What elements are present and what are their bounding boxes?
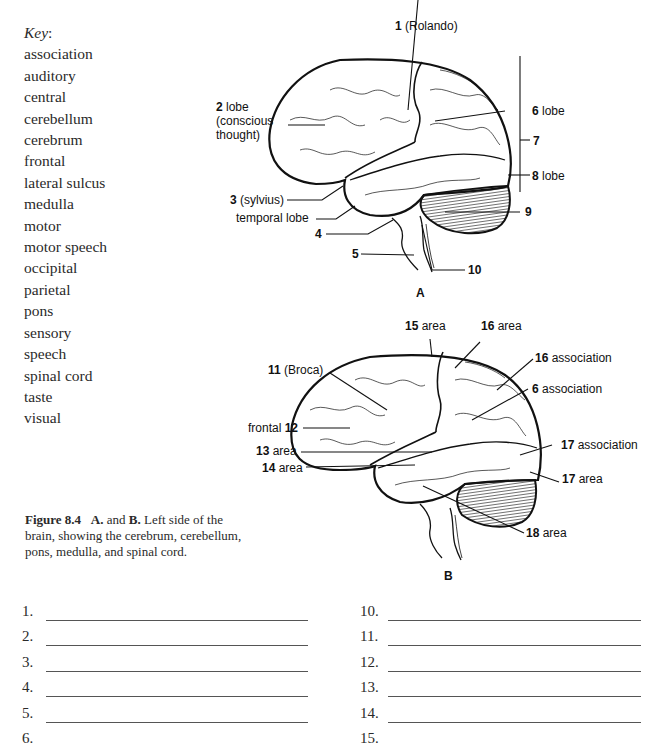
answer-row: 13. — [360, 677, 650, 702]
svg-text:11 (Broca): 11 (Broca) — [268, 363, 323, 377]
svg-text:6 association: 6 association — [532, 382, 602, 396]
answer-row: 14. — [360, 703, 650, 728]
svg-text:5: 5 — [352, 247, 359, 261]
svg-text:(conscious: (conscious — [216, 114, 273, 128]
answer-blank[interactable] — [388, 671, 641, 672]
answer-number: 5. — [22, 705, 33, 722]
svg-text:15 area: 15 area — [405, 319, 446, 333]
answer-number: 14. — [360, 705, 379, 722]
brain-a — [269, 59, 510, 272]
svg-text:temporal lobe: temporal lobe — [236, 211, 309, 225]
svg-text:thought): thought) — [216, 128, 260, 142]
svg-text:13 area: 13 area — [256, 444, 297, 458]
brain-b — [291, 352, 540, 560]
answer-column-left: 1. 2. 3. 4. 5. 6. — [22, 601, 312, 747]
svg-text:B: B — [444, 569, 453, 583]
answer-row: 15. — [360, 728, 650, 747]
svg-text:18 area: 18 area — [526, 526, 567, 540]
answer-row: 10. — [360, 601, 650, 626]
answer-blank[interactable] — [46, 696, 308, 697]
svg-text:7: 7 — [533, 134, 540, 148]
svg-text:6 lobe: 6 lobe — [532, 104, 565, 118]
answer-number: 2. — [22, 628, 33, 645]
answer-row: 6. — [22, 728, 312, 747]
answer-blank[interactable] — [388, 620, 641, 621]
answer-number: 10. — [360, 603, 379, 620]
svg-text:8 lobe: 8 lobe — [532, 169, 565, 183]
svg-text:2 lobe: 2 lobe — [216, 100, 249, 114]
svg-text:A: A — [416, 286, 425, 300]
answer-number: 15. — [360, 730, 379, 747]
answer-row: 11. — [360, 626, 650, 651]
svg-text:16 area: 16 area — [481, 319, 522, 333]
answer-blank[interactable] — [46, 645, 308, 646]
labels-a: 1 (Rolando) 2 lobe (conscious thought) 6… — [216, 19, 565, 300]
answer-blank[interactable] — [46, 620, 308, 621]
answer-row: 12. — [360, 652, 650, 677]
answer-blank[interactable] — [46, 722, 308, 723]
answer-row: 3. — [22, 652, 312, 677]
answer-number: 12. — [360, 654, 379, 671]
svg-text:17 area: 17 area — [562, 472, 603, 486]
answer-blank[interactable] — [388, 645, 641, 646]
brain-diagram: 1 (Rolando) 2 lobe (conscious thought) 6… — [0, 0, 656, 600]
svg-text:9: 9 — [525, 205, 532, 219]
answer-row: 1. — [22, 601, 312, 626]
answer-blank[interactable] — [388, 722, 641, 723]
svg-text:10: 10 — [468, 263, 482, 277]
answer-number: 1. — [22, 603, 33, 620]
answer-row: 4. — [22, 677, 312, 702]
svg-text:17 association: 17 association — [561, 438, 638, 452]
answer-blank[interactable] — [388, 696, 641, 697]
svg-text:16 association: 16 association — [535, 351, 612, 365]
svg-text:1 (Rolando): 1 (Rolando) — [395, 19, 458, 33]
answer-row: 2. — [22, 626, 312, 651]
answer-number: 3. — [22, 654, 33, 671]
svg-text:14 area: 14 area — [262, 461, 303, 475]
labels-b: 15 area 16 area 16 association 11 (Broca… — [248, 319, 638, 583]
svg-text:3 (sylvius): 3 (sylvius) — [230, 193, 284, 207]
answer-number: 13. — [360, 679, 379, 696]
svg-text:4: 4 — [315, 227, 322, 241]
answer-number: 11. — [360, 628, 378, 645]
answer-number: 6. — [22, 730, 33, 747]
answer-column-right: 10. 11. 12. 13. 14. 15. — [360, 601, 650, 747]
svg-text:frontal 12: frontal 12 — [248, 421, 298, 435]
answer-blank[interactable] — [46, 671, 308, 672]
answer-row: 5. — [22, 703, 312, 728]
answer-number: 4. — [22, 679, 33, 696]
